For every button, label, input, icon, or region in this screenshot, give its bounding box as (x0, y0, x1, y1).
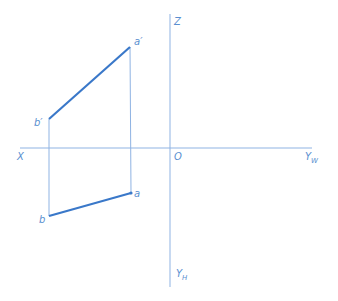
x-axis-label: X (16, 151, 25, 162)
projector-a (130, 47, 131, 193)
label-a-prime: a′ (134, 36, 143, 47)
yh-axis-label: YH (176, 268, 188, 282)
z-axis-label: Z (173, 16, 182, 27)
yh-subscript: H (182, 274, 188, 282)
diagram-canvas: X Z O YW YH a′ b′ a b (0, 0, 338, 301)
front-view-segment (49, 47, 130, 119)
label-b: b (39, 214, 45, 225)
yw-subscript: W (311, 157, 319, 165)
point-a-marker (129, 191, 132, 194)
top-view-segment (49, 193, 131, 216)
label-b-prime: b′ (34, 117, 43, 128)
origin-label: O (174, 151, 182, 162)
yw-axis-label: YW (305, 151, 319, 165)
projection-diagram: X Z O YW YH a′ b′ a b (0, 0, 338, 301)
label-a: a (134, 188, 140, 199)
